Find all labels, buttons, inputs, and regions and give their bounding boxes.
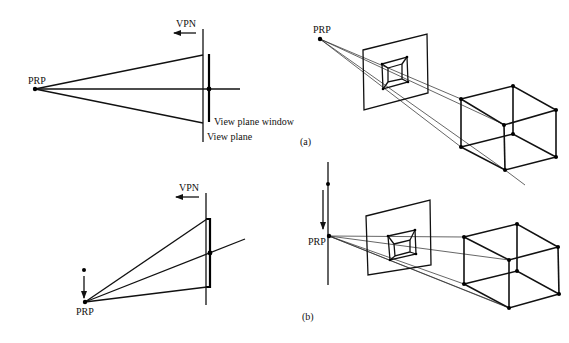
panel-b-side-view: VPN PRP (76, 182, 245, 317)
prp-label: PRP (28, 75, 46, 86)
prp-point (33, 87, 37, 91)
panel-b-perspective-view: PRP (302, 162, 561, 323)
window-center-point (207, 87, 212, 92)
vpn-label: VPN (176, 18, 196, 29)
prp-point (83, 300, 87, 304)
panel-b-caption: (b) (302, 311, 314, 323)
projected-cube-inner (394, 240, 410, 256)
cube-b (462, 222, 561, 310)
view-plane-rect (363, 34, 428, 110)
bottom-ray (35, 89, 203, 123)
panel-a-perspective-view: PRP (300, 24, 558, 185)
prp-label: PRP (313, 24, 331, 35)
projected-cube-outer (388, 230, 416, 260)
panel-a-caption: (a) (300, 136, 311, 148)
panel-a-side-view: VPN PRP View plane window View plane (28, 18, 295, 142)
window-center-point (208, 251, 213, 256)
original-prp-point (326, 182, 330, 186)
prp-label: PRP (76, 306, 94, 317)
view-plane-label: View plane (207, 131, 253, 142)
prp-label: PRP (308, 236, 326, 247)
projection-diagram: VPN PRP View plane window View plane PRP (0, 0, 569, 343)
view-plane-window-label: View plane window (214, 116, 295, 127)
top-ray (35, 55, 203, 89)
original-prp-point (82, 268, 86, 272)
cube-a (459, 84, 558, 172)
vpn-label: VPN (179, 182, 199, 193)
